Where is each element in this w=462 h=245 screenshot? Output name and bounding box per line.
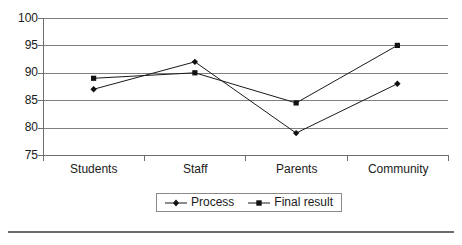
data-point-square (395, 43, 400, 48)
x-tick-label-students: Students (43, 161, 145, 179)
x-tick-label-parents: Parents (246, 161, 348, 179)
legend-label-final-result: Final result (274, 196, 333, 209)
y-axis-labels: 100 95 90 85 80 75 (0, 0, 38, 182)
footer-divider (8, 231, 454, 233)
chart-figure: 100 95 90 85 80 75 (0, 0, 462, 245)
series-line (94, 45, 398, 103)
legend-label-process: Process (191, 196, 234, 209)
x-axis-labels: Students Staff Parents Community (43, 161, 449, 179)
legend-marker-diamond-icon (165, 198, 187, 208)
legend-marker-square-icon (248, 198, 270, 208)
data-point-diamond (293, 130, 299, 136)
series-line (94, 62, 398, 133)
series-final-result (91, 43, 400, 106)
y-tick-label-80: 80 (2, 121, 38, 133)
chart-legend: Process Final result (156, 193, 342, 212)
x-tick-label-staff: Staff (145, 161, 247, 179)
y-tick-label-75: 75 (2, 149, 38, 161)
data-point-square (192, 70, 197, 75)
legend-item-final-result: Final result (248, 196, 333, 209)
data-point-square (91, 76, 96, 81)
y-tick-label-90: 90 (2, 66, 38, 78)
data-point-diamond (394, 81, 400, 87)
data-point-square (294, 100, 299, 105)
x-tick-label-community: Community (348, 161, 450, 179)
chart-plot-region: 100 95 90 85 80 75 (0, 0, 462, 182)
y-tick-label-95: 95 (2, 39, 38, 51)
y-tick-label-100: 100 (2, 12, 38, 24)
x-axis-line (43, 155, 449, 156)
y-tick-label-85: 85 (2, 94, 38, 106)
legend-item-process: Process (165, 196, 234, 209)
series-overlay (43, 18, 448, 155)
data-point-diamond (192, 59, 198, 65)
data-point-diamond (90, 86, 96, 92)
